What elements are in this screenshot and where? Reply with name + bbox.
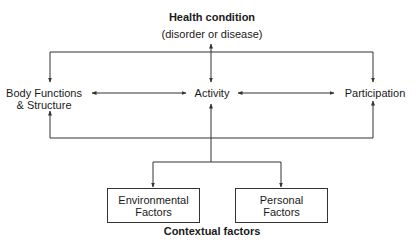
- environmental-line1: Environmental: [118, 194, 188, 206]
- environmental-line2: Factors: [135, 206, 172, 218]
- health-condition-title: Health condition: [150, 11, 274, 23]
- environmental-factors-box: Environmental Factors: [107, 188, 200, 223]
- personal-factors-box: Personal Factors: [235, 188, 328, 223]
- contextual-factors-caption: Contextual factors: [150, 225, 274, 237]
- health-condition-subtitle: (disorder or disease): [150, 28, 274, 40]
- personal-line2: Factors: [263, 206, 300, 218]
- body-functions-line2: & Structure: [4, 99, 84, 111]
- body-functions-line1: Body Functions: [4, 87, 84, 99]
- body-functions-node: Body Functions & Structure: [4, 87, 84, 111]
- personal-line1: Personal: [260, 194, 303, 206]
- activity-node: Activity: [186, 87, 238, 99]
- participation-node: Participation: [340, 87, 410, 99]
